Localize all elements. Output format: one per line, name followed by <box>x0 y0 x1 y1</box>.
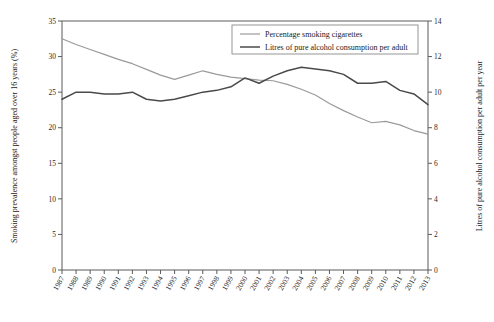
x-tick-label: 1995 <box>164 274 179 292</box>
y-tick-label: 25 <box>49 88 57 97</box>
x-tick-label: 2012 <box>403 274 418 292</box>
x-tick-label: 2001 <box>248 274 263 292</box>
y-tick-label: 0 <box>52 266 56 275</box>
left-axis: 05101520253035 <box>49 17 63 275</box>
y2-tick-label: 2 <box>434 230 438 239</box>
y-tick-label: 20 <box>49 123 57 132</box>
x-tick-label: 1993 <box>135 274 150 292</box>
y2-tick-label: 8 <box>434 123 438 132</box>
x-tick-label: 1989 <box>79 274 94 292</box>
y-tick-label: 10 <box>49 195 57 204</box>
x-tick-label: 2004 <box>290 274 305 292</box>
x-tick-label: 1994 <box>149 274 164 292</box>
x-tick-label: 1997 <box>192 274 207 292</box>
y2-tick-label: 14 <box>434 17 442 26</box>
y2-axis-title: Litres of pure alcohol consumption per a… <box>475 60 484 231</box>
y2-tick-label: 6 <box>434 159 438 168</box>
x-tick-label: 2000 <box>234 274 249 292</box>
y-tick-label: 15 <box>49 159 57 168</box>
y2-tick-label: 0 <box>434 266 438 275</box>
x-tick-label: 1990 <box>93 274 108 292</box>
x-tick-label: 2003 <box>276 274 291 292</box>
legend-label-1: Litres of pure alcohol consumption per a… <box>265 43 408 52</box>
x-tick-label: 1988 <box>65 274 80 292</box>
x-tick-label: 2002 <box>262 274 277 292</box>
x-tick-label: 1999 <box>220 274 235 292</box>
x-tick-label: 1992 <box>121 274 136 292</box>
chart-legend: Percentage smoking cigarettesLitres of p… <box>232 25 418 54</box>
legend-label-0: Percentage smoking cigarettes <box>265 30 362 39</box>
y-tick-label: 30 <box>49 52 57 61</box>
x-tick-label: 1996 <box>178 274 193 292</box>
x-tick-label: 1987 <box>51 274 66 292</box>
right-axis: 02468101214 <box>428 17 442 275</box>
x-tick-label: 2009 <box>361 274 376 292</box>
y2-tick-label: 4 <box>434 195 438 204</box>
x-tick-label: 1991 <box>107 274 122 292</box>
x-axis: 1987198819891990199119921993199419951996… <box>51 270 432 292</box>
x-tick-label: 2006 <box>318 274 333 292</box>
x-tick-label: 2007 <box>332 274 347 292</box>
dual-axis-line-chart: 05101520253035 02468101214 1987198819891… <box>0 0 494 322</box>
x-tick-label: 2010 <box>375 274 390 292</box>
y-tick-label: 35 <box>49 17 57 26</box>
x-tick-label: 2011 <box>389 274 404 291</box>
y-axis-title: Smoking prevalence amongst people aged o… <box>10 49 19 243</box>
x-tick-label: 2005 <box>304 274 319 292</box>
x-tick-label: 1998 <box>206 274 221 292</box>
chart-figure: 05101520253035 02468101214 1987198819891… <box>0 0 494 322</box>
y-tick-label: 5 <box>52 230 56 239</box>
y2-tick-label: 12 <box>434 52 442 61</box>
series-line-1 <box>62 67 428 104</box>
y2-tick-label: 10 <box>434 88 442 97</box>
x-tick-label: 2008 <box>347 274 362 292</box>
x-tick-label: 2013 <box>417 274 432 292</box>
